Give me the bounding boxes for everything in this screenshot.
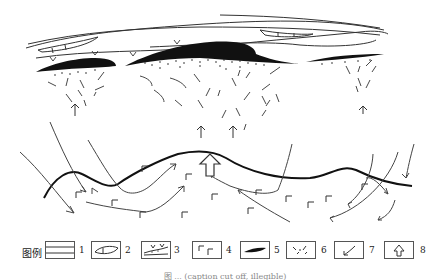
v-dots-icon [142, 242, 170, 258]
legend-num-2: 2 [125, 245, 131, 255]
geological-model-diagram [0, 0, 443, 235]
legend: 图例 1 2 3 4 5 6 7 8 [0, 236, 443, 264]
legend-symbol-volcanic [192, 241, 222, 259]
alteration-dashes [48, 60, 376, 130]
legend-num-8: 8 [420, 245, 426, 255]
legend-symbol-lens [91, 241, 121, 259]
ore-body-icon [241, 242, 269, 258]
small-up-arrows [71, 104, 367, 138]
legend-symbol-flow-arrow [334, 241, 364, 259]
legend-num-5: 5 [274, 245, 280, 255]
curved-arrow-icon [335, 242, 363, 258]
legend-symbol-strata [45, 241, 75, 259]
legend-num-4: 4 [226, 245, 232, 255]
lens-icon [92, 242, 120, 258]
legend-symbol-v-dots [141, 241, 171, 259]
legend-title: 图例 [22, 245, 42, 260]
legend-symbol-alteration [286, 241, 316, 259]
hollow-arrow-icon [385, 242, 413, 258]
legend-num-3: 3 [174, 245, 180, 255]
legend-num-6: 6 [321, 245, 327, 255]
strata-icon [46, 242, 74, 258]
volcanic-icon [193, 242, 221, 258]
legend-num-1: 1 [79, 245, 85, 255]
legend-symbol-hollow-arrow [384, 241, 414, 259]
hollow-up-arrow-icon [200, 154, 220, 176]
legend-num-7: 7 [369, 245, 375, 255]
figure-caption: 图 ... (caption cut off, illegible) [60, 270, 390, 280]
legend-symbol-ore-body [240, 241, 270, 259]
alteration-icon [287, 242, 315, 258]
